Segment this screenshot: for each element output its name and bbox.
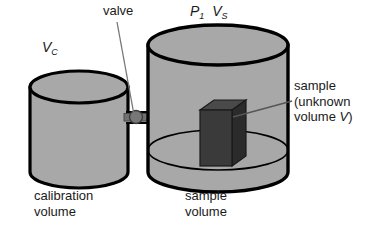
sample-box-side-face [232,100,246,166]
sample-volume-caption: samplevolume [185,188,227,219]
calibration-volume-caption: calibrationvolume [34,188,93,219]
sample-caption-line-2: volume [185,204,227,219]
sample-cylinder-top [148,25,288,65]
p1-base: P [190,3,199,19]
valve-knob-icon[interactable] [130,111,143,124]
sample-state-symbols: P1 VS [190,4,228,20]
vs-subscript: S [221,11,227,21]
sample-annotation-line-1: sample [294,78,336,93]
sample-box-front-face [200,110,232,166]
sample-annotation-line-3-suffix: ) [348,109,352,124]
vc-subscript: C [51,47,58,57]
calibration-volume-symbol: VC [42,40,58,56]
vc-base: V [42,39,51,55]
calibration-cylinder [30,71,128,188]
sample-annotation-line-2: (unknown [294,94,350,109]
calibration-caption-line-2: volume [34,204,76,219]
sample-box [200,100,246,166]
sample-annotation: sample(unknownvolume V) [294,78,353,125]
calibration-cylinder-top [30,71,128,103]
sample-annotation-volume-symbol: V [340,109,349,124]
pycnometer-diagram: valve VC P1 VS sample(unknownvolume V) c… [0,0,365,231]
p1-subscript: 1 [199,11,204,21]
calibration-caption-line-1: calibration [34,188,93,203]
symbol-gap [204,3,212,19]
sample-caption-line-1: sample [185,188,227,203]
valve-label: valve [103,3,133,19]
sample-annotation-line-3-prefix: volume [294,109,340,124]
